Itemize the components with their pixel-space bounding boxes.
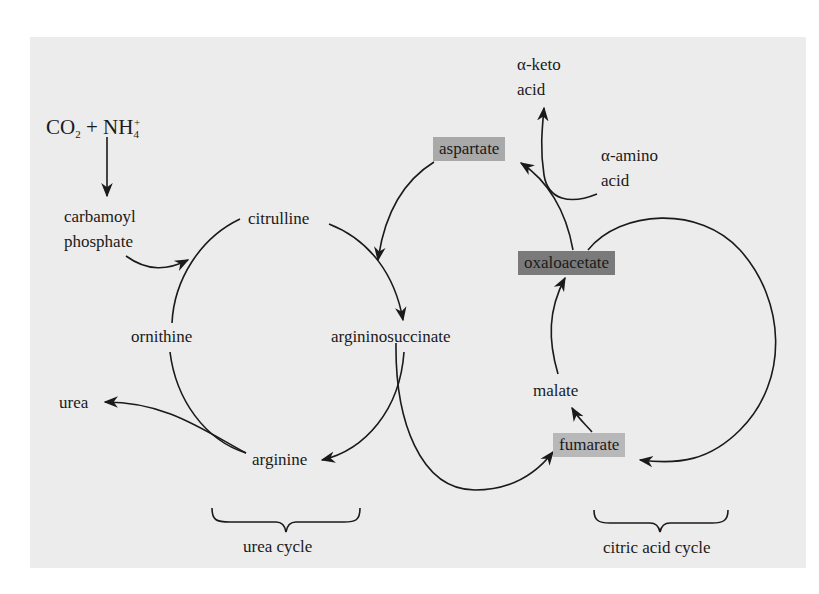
alpha-keto-line2: acid (517, 80, 561, 100)
arrow-malate-to-oxaloacetate (551, 278, 565, 374)
fumarate-box: fumarate (553, 433, 625, 457)
arrow-aspartate-to-argininosuccinate (378, 162, 434, 260)
arrow-to-alpha-keto-acid (542, 108, 597, 200)
arc-arginine-to-ornithine (170, 352, 246, 453)
malate-label: malate (533, 381, 578, 401)
pathway-arrows (0, 0, 819, 594)
citric-acid-cycle-brace (594, 510, 728, 532)
arrow-argininosuccinate-to-fumarate (396, 343, 553, 490)
arrow-carbamoyl-to-cycle (126, 256, 188, 268)
ornithine-label: ornithine (131, 327, 192, 347)
argininosuccinate-label: argininosuccinate (331, 327, 451, 347)
citric-acid-cycle-label: citric acid cycle (603, 538, 711, 558)
alpha-amino-line2: acid (601, 171, 658, 191)
oxaloacetate-box: oxaloacetate (518, 251, 615, 275)
plus-sign: + (86, 115, 98, 139)
co2-label: CO (46, 115, 75, 139)
alpha-amino-line1: α-amino (601, 146, 658, 166)
arrow-oxaloacetate-to-aspartate (521, 163, 573, 250)
carbamoyl-phosphate-label: carbamoyl phosphate (64, 207, 136, 252)
nh4-superscript: + (134, 116, 140, 128)
urea-cycle-brace (212, 508, 360, 532)
alpha-amino-acid-label: α-amino acid (601, 146, 658, 191)
co2-subscript: 2 (75, 128, 81, 140)
nh4-label: NH (103, 115, 133, 139)
arrow-argininosuccinate-to-arginine (322, 352, 404, 460)
co2-nh4-input: CO2 + NH4+ (46, 112, 140, 144)
arrow-to-urea (105, 402, 246, 453)
aspartate-box: aspartate (433, 137, 505, 161)
alpha-keto-line1: α-keto (517, 55, 561, 75)
arc-oxaloacetate-to-fumarate (588, 218, 776, 462)
alpha-keto-acid-label: α-keto acid (517, 55, 561, 100)
urea-label: urea (59, 393, 88, 413)
arc-ornithine-to-citrulline (172, 219, 240, 323)
carbamoyl-line2: phosphate (64, 232, 136, 252)
urea-cycle-label: urea cycle (243, 537, 312, 557)
citrulline-label: citrulline (248, 209, 309, 229)
nh4-subscript: 4 (133, 128, 139, 140)
carbamoyl-line1: carbamoyl (64, 207, 136, 227)
arginine-label: arginine (252, 450, 307, 470)
arrow-fumarate-to-malate (572, 408, 592, 432)
arrow-citrulline-to-argininosuccinate (329, 224, 403, 320)
